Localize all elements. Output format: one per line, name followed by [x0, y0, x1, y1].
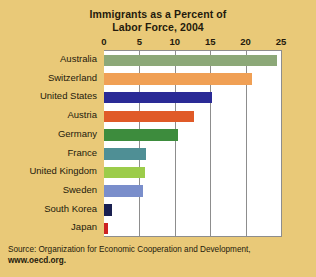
x-tick-20: 20: [240, 36, 251, 47]
bar-row: [104, 145, 281, 164]
gridline-25: [281, 51, 282, 236]
category-label-united-kingdom: United Kingdom: [29, 162, 97, 181]
x-axis-tick-labels: 0510152025: [104, 36, 281, 49]
bar-row: [104, 219, 281, 238]
bar-row: [104, 126, 281, 145]
y-axis-category-labels: AustraliaSwitzerlandUnited StatesAustria…: [0, 50, 101, 237]
category-label-australia: Australia: [60, 50, 97, 69]
bar-row: [104, 51, 281, 70]
source-line-2: www.oecd.org.: [8, 256, 308, 267]
bar-austria: [104, 111, 194, 123]
bar-switzerland: [104, 73, 252, 85]
bar-united-states: [104, 92, 212, 104]
plot-area: [104, 50, 282, 237]
x-tick-15: 15: [205, 36, 216, 47]
bar-row: [104, 107, 281, 126]
x-tick-5: 5: [137, 36, 142, 47]
bar-row: [104, 88, 281, 107]
bar-france: [104, 148, 146, 160]
bar-series: [104, 51, 281, 236]
category-label-switzerland: Switzerland: [48, 69, 97, 88]
bar-row: [104, 70, 281, 89]
bar-south-korea: [104, 204, 112, 216]
x-tick-10: 10: [170, 36, 181, 47]
bar-row: [104, 182, 281, 201]
category-label-south-korea: South Korea: [44, 200, 97, 219]
category-label-france: France: [67, 144, 97, 163]
bar-germany: [104, 129, 178, 141]
bar-row: [104, 163, 281, 182]
category-label-austria: Austria: [67, 106, 97, 125]
bar-sweden: [104, 185, 143, 197]
x-tick-0: 0: [101, 36, 106, 47]
chart-container: 0510152025 AustraliaSwitzerlandUnited St…: [0, 0, 316, 277]
category-label-germany: Germany: [58, 125, 97, 144]
bar-united-kingdom: [104, 167, 145, 179]
x-tick-25: 25: [276, 36, 287, 47]
category-label-united-states: United States: [40, 87, 97, 106]
bar-australia: [104, 55, 277, 67]
source-line-1: Source: Organization for Economic Cooper…: [8, 245, 308, 256]
bar-japan: [104, 223, 108, 235]
bar-row: [104, 201, 281, 220]
category-label-sweden: Sweden: [63, 181, 97, 200]
category-label-japan: Japan: [71, 218, 97, 237]
source-note: Source: Organization for Economic Cooper…: [8, 245, 308, 266]
